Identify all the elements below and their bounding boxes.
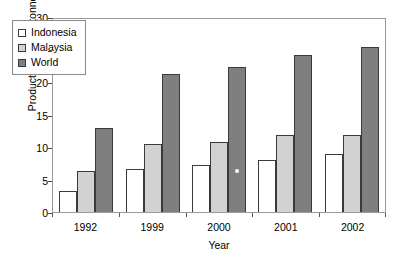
y-axis-tick-mark (48, 83, 52, 84)
y-axis-tick-mark (48, 18, 52, 19)
y-axis-tick-label: 0 (26, 208, 48, 218)
bar (162, 74, 180, 212)
y-axis-tick-label: 5 (26, 176, 48, 186)
y-axis-tick-mark (48, 51, 52, 52)
y-axis-tick-label: 10 (26, 143, 48, 153)
x-axis-tick-label: 1992 (52, 221, 119, 235)
bar (126, 169, 144, 212)
legend-item-label: Indonesia (31, 27, 77, 38)
x-axis-tick-mark (52, 213, 53, 217)
y-axis-tick-mark (48, 116, 52, 117)
bar (59, 191, 77, 212)
legend-swatch-icon (18, 29, 26, 37)
bar (294, 55, 312, 212)
bar-group (319, 19, 385, 212)
y-axis-tick-mark (48, 148, 52, 149)
bar (192, 165, 210, 212)
x-axis-tick-mark (252, 213, 253, 217)
bar (95, 128, 113, 212)
x-axis-tick-labels: 19921999200020012002 (52, 221, 386, 235)
bar (258, 160, 276, 212)
bar (276, 135, 294, 212)
x-axis-title: Year (52, 239, 386, 251)
x-axis-tick-label: 2000 (186, 221, 253, 235)
x-axis-tick-mark (319, 213, 320, 217)
x-axis-tick-mark (186, 213, 187, 217)
y-axis-tick-label: 20 (26, 78, 48, 88)
image-artifact-speck (235, 169, 239, 173)
bar (361, 47, 379, 212)
x-axis-tick-label: 1999 (119, 221, 186, 235)
legend-item: Indonesia (18, 25, 77, 40)
bar-group (252, 19, 318, 212)
x-axis-tick-mark (119, 213, 120, 217)
x-axis-tick-label: 2001 (252, 221, 319, 235)
y-axis-tick-mark (48, 181, 52, 182)
x-axis-tick-label: 2002 (319, 221, 386, 235)
x-axis-tick-mark (385, 213, 386, 217)
legend-swatch-icon (18, 44, 26, 52)
chart-legend: IndonesiaMalaysiaWorld (12, 20, 86, 75)
bar (325, 154, 343, 213)
bar-group (119, 19, 185, 212)
bar-group (186, 19, 252, 212)
bar-groups (53, 19, 385, 212)
bar-group-bars (119, 19, 185, 212)
bar-group-bars (319, 19, 385, 212)
bar (77, 171, 95, 212)
bar-chart: Production (million tonnes) 051015202530… (0, 0, 398, 269)
legend-item: World (18, 55, 77, 70)
y-axis-tick-label: 15 (26, 111, 48, 121)
bar-group-bars (252, 19, 318, 212)
bar (343, 135, 361, 212)
plot-area (52, 18, 386, 213)
bar (210, 142, 228, 212)
bar (144, 144, 162, 212)
bar (228, 67, 246, 212)
legend-item-label: World (31, 57, 58, 68)
legend-swatch-icon (18, 59, 26, 67)
bar-group-bars (186, 19, 252, 212)
legend-item: Malaysia (18, 40, 77, 55)
